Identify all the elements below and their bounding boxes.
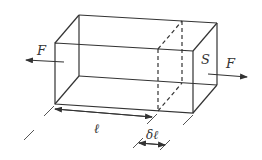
tick-right [183,115,193,125]
dashed-top-diagonal [158,21,182,49]
depth-edge-top-right [193,23,217,51]
elongation-label: δℓ [146,128,158,142]
force-arrows [26,60,247,77]
cross-section-label: S [201,52,210,67]
force-arrow-left [26,60,64,62]
force-arrow-right [208,74,247,77]
depth-edge-bottom-left [55,76,79,104]
depth-edge-top-left [55,15,79,43]
tick-left-upper [44,106,54,116]
diagram-figure: F S F ℓ δℓ [0,0,262,160]
dimension-ticks [24,106,193,150]
back-top-edge [79,15,217,23]
length-label: ℓ [94,121,100,136]
back-bottom-edge [79,76,217,85]
dashed-bottom-diagonal [158,83,182,111]
force-right-label: F [225,56,236,71]
length-arrow-start [55,109,152,117]
elongation-arrow-start [139,143,165,145]
depth-edge-bottom-right [193,85,217,113]
front-face [55,43,193,113]
tick-mid [147,114,157,124]
force-left-label: F [36,43,47,58]
tick-left-lower [24,130,34,140]
elongation-section [158,21,182,111]
box-outline [55,15,217,113]
